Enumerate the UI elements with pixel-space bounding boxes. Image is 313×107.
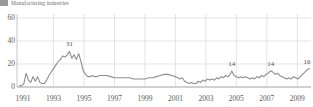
x-tick-label: 2007 [259,94,274,103]
x-tick-label: 2003 [198,94,213,103]
x-tick-label: 1995 [77,94,92,103]
chart-figure: Manufacturing industries 0204060 3114141… [0,0,313,107]
x-axis: 1991199319951997199920012003200520072009 [0,94,313,107]
x-tick-label: 2009 [290,94,305,103]
data-point-label: 31 [66,41,73,48]
chart-legend: Manufacturing industries [0,0,160,7]
square-swatch-icon [0,0,8,6]
line-chart-svg [0,12,313,92]
data-point-label: 14 [267,61,274,68]
data-point-label: 14 [228,61,235,68]
legend-item-label: Manufacturing industries [11,0,69,6]
x-tick-label: 1997 [107,94,122,103]
x-tick-label: 2001 [168,94,183,103]
plot-area [0,12,313,92]
x-tick-label: 2005 [229,94,244,103]
x-tick-label: 1991 [16,94,31,103]
data-point-label: 16 [304,59,311,66]
x-tick-label: 1993 [46,94,61,103]
data-series-line [19,51,309,86]
x-tick-label: 1999 [137,94,152,103]
